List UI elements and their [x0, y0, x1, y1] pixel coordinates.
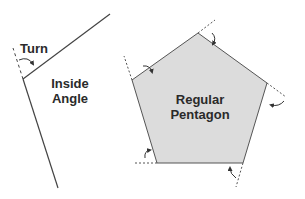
pentagon-label: Regular Pentagon: [167, 92, 233, 122]
inside-angle-label: Inside Angle: [48, 76, 92, 106]
turn-label: Turn: [20, 41, 48, 56]
turn-arrow-icon: [271, 101, 284, 106]
turn-arrow-icon: [212, 33, 215, 44]
inside-angle-line2: Angle: [48, 91, 92, 106]
pentagon-line1: Regular: [167, 92, 233, 107]
inside-angle-line1: Inside: [48, 76, 92, 91]
turn-arrow-icon: [19, 59, 33, 64]
pentagon-line2: Pentagon: [167, 107, 233, 122]
turn-arrow-icon: [145, 150, 150, 158]
diagram-canvas: [0, 0, 305, 199]
turn-arrow-icon: [230, 168, 236, 178]
